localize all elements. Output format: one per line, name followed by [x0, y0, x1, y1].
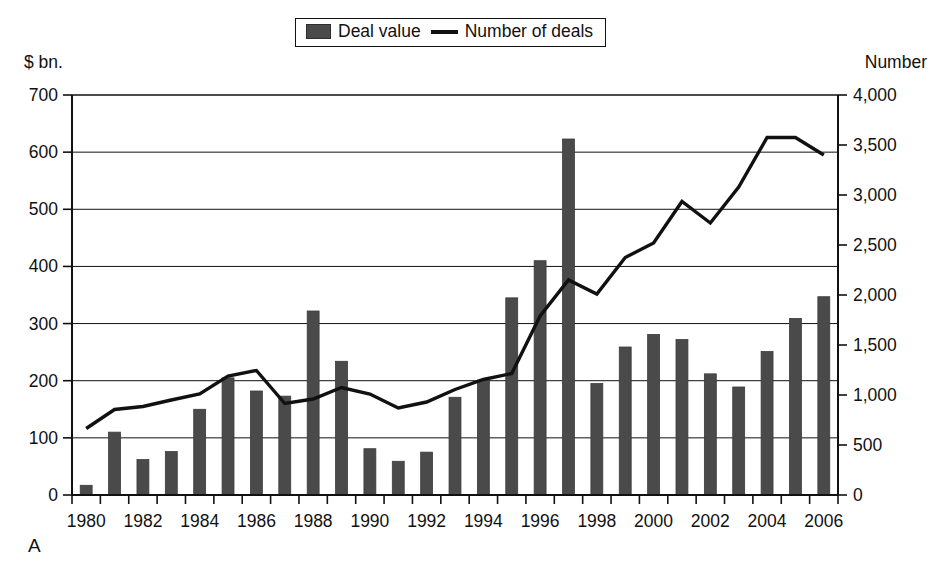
bar-2001 — [676, 340, 688, 495]
bar-1992 — [421, 452, 433, 495]
bar-1990 — [364, 449, 376, 495]
right-tick-label-3000: 3,000 — [853, 185, 897, 205]
bar-1999 — [619, 347, 631, 495]
bar-2006 — [818, 297, 830, 495]
left-tick-label-100: 100 — [29, 428, 58, 448]
x-tick-label-2002: 2002 — [691, 511, 730, 531]
x-tick-label-1992: 1992 — [407, 511, 446, 531]
x-tick-label-1980: 1980 — [67, 511, 106, 531]
bar-1980 — [80, 485, 92, 495]
bar-1986 — [250, 391, 262, 495]
right-tick-label-3500: 3,500 — [853, 135, 897, 155]
right-tick-label-4000: 4,000 — [853, 85, 897, 105]
left-tick-label-0: 0 — [48, 485, 58, 505]
bar-1987 — [279, 396, 291, 495]
left-tick-label-200: 200 — [29, 371, 58, 391]
bar-1985 — [222, 378, 234, 495]
bar-1995 — [506, 298, 518, 495]
bar-2002 — [704, 374, 716, 495]
x-tick-label-2004: 2004 — [748, 511, 787, 531]
bar-1991 — [392, 461, 404, 495]
right-tick-label-0: 0 — [853, 485, 863, 505]
bar-1996 — [534, 261, 546, 495]
x-tick-label-2006: 2006 — [804, 511, 843, 531]
figure-panel-a: Deal value Number of deals $ bn. Number … — [0, 0, 949, 580]
x-tick-label-2000: 2000 — [634, 511, 673, 531]
left-tick-label-300: 300 — [29, 314, 58, 334]
x-tick-label-1994: 1994 — [464, 511, 503, 531]
x-tick-label-1986: 1986 — [237, 511, 276, 531]
chart-plot-area: 010020030040050060070005001,0001,5002,00… — [0, 0, 949, 580]
x-tick-label-1982: 1982 — [123, 511, 162, 531]
left-tick-label-600: 600 — [29, 142, 58, 162]
bar-1998 — [591, 384, 603, 495]
right-tick-label-1500: 1,500 — [853, 335, 897, 355]
left-tick-label-500: 500 — [29, 199, 58, 219]
bar-2000 — [648, 334, 660, 495]
left-tick-label-400: 400 — [29, 256, 58, 276]
x-tick-label-1998: 1998 — [577, 511, 616, 531]
x-tick-label-1984: 1984 — [180, 511, 219, 531]
bar-2005 — [789, 318, 801, 495]
right-tick-label-500: 500 — [853, 435, 882, 455]
right-tick-label-2500: 2,500 — [853, 235, 897, 255]
bar-1982 — [137, 460, 149, 495]
bar-2004 — [761, 352, 773, 495]
x-tick-label-1996: 1996 — [521, 511, 560, 531]
bar-1994 — [477, 380, 489, 495]
left-tick-label-700: 700 — [29, 85, 58, 105]
bar-1989 — [336, 361, 348, 495]
bar-1993 — [449, 397, 461, 495]
x-tick-label-1988: 1988 — [294, 511, 333, 531]
bar-1984 — [194, 409, 206, 495]
right-tick-label-2000: 2,000 — [853, 285, 897, 305]
bar-1981 — [109, 432, 121, 495]
bar-1983 — [165, 452, 177, 495]
right-tick-label-1000: 1,000 — [853, 385, 897, 405]
x-tick-label-1990: 1990 — [350, 511, 389, 531]
chart-canvas: 010020030040050060070005001,0001,5002,00… — [0, 0, 949, 580]
bar-2003 — [733, 387, 745, 495]
bar-1988 — [307, 311, 319, 495]
bar-1997 — [563, 139, 575, 495]
